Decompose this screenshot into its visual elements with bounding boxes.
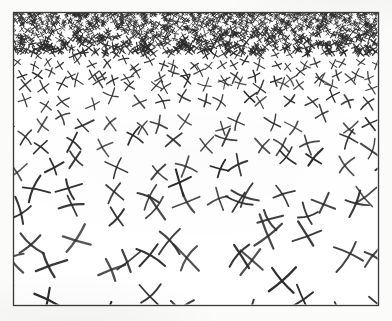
texture-gradient-figure	[0, 0, 392, 321]
texture-gradient-canvas	[0, 0, 392, 321]
